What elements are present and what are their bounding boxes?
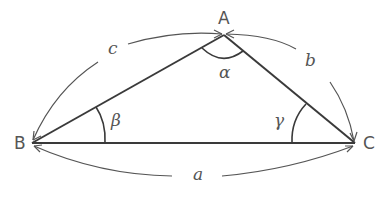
side-a-label: a (193, 166, 203, 183)
angle-beta-label: β (111, 112, 121, 129)
side-a-arc-left (34, 146, 172, 176)
side-c-arc (33, 62, 98, 140)
side-c-arc-top (128, 33, 222, 44)
vertex-c-label: C (363, 135, 375, 152)
side-a-arc-right (222, 146, 353, 176)
vertex-b-label: B (14, 135, 26, 152)
triangle-diagram: A B C c b a α β γ (0, 0, 382, 200)
angle-beta-arc (96, 107, 105, 143)
side-c-line (32, 35, 224, 143)
side-b-arc (226, 34, 296, 49)
angle-gamma-arc (292, 104, 306, 143)
side-c-label: c (108, 40, 118, 57)
angle-alpha-arc (202, 48, 243, 58)
angle-alpha-label: α (219, 64, 230, 81)
vertex-a-label: A (218, 10, 230, 27)
side-b-label: b (305, 52, 316, 69)
triangle-figure (0, 0, 382, 200)
angle-gamma-label: γ (274, 112, 284, 129)
side-b-line (224, 35, 355, 143)
